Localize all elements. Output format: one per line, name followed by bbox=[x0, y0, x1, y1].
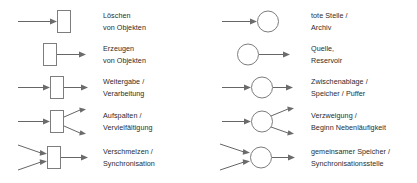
label-group: Aufspalten / Vervielfältigung bbox=[103, 105, 209, 138]
legend-label-line1: Aufspalten / bbox=[103, 110, 209, 121]
label-group: Erzeugen von Objekten bbox=[103, 38, 209, 71]
glyph-two-arrows-in-rectangle-arrow-out bbox=[0, 141, 104, 174]
place-circle bbox=[258, 11, 279, 32]
legend-label-line2: Beginn Nebenläufigkeit bbox=[311, 122, 417, 133]
label-group: gemeinsamer Speicher / Synchronisationss… bbox=[311, 141, 417, 174]
legend-label-line1: Zwischenablage / bbox=[311, 76, 417, 87]
legend-row-tote-stelle: tote Stelle / Archiv bbox=[208, 5, 417, 38]
legend-row-aufspalten: Aufspalten / Vervielfältigung bbox=[0, 105, 208, 138]
label-group: Verzweigung / Beginn Nebenläufigkeit bbox=[311, 105, 417, 138]
legend-row-loeschen: Löschen von Objekten bbox=[0, 5, 208, 38]
glyph-arrow-in-circle-two-arrows-out bbox=[208, 105, 312, 138]
label-group: Zwischenablage / Speicher / Puffer bbox=[311, 71, 417, 104]
legend-column-transitions: Löschen von Objekten Erzeugen von Objekt… bbox=[0, 0, 208, 183]
legend-row-zwischenablage: Zwischenablage / Speicher / Puffer bbox=[208, 71, 417, 104]
legend-column-places: tote Stelle / Archiv Quelle, Reservoir bbox=[208, 0, 417, 183]
legend-row-verschmelzen: Verschmelzen / Synchronisation bbox=[0, 141, 208, 174]
glyph-rectangle-arrow-out bbox=[0, 38, 104, 71]
glyph-arrow-in-rectangle-arrow-out bbox=[0, 71, 104, 104]
legend-label-line2: Reservoir bbox=[311, 55, 417, 66]
legend-label-line2: von Objekten bbox=[103, 55, 209, 66]
transition-rectangle bbox=[48, 147, 61, 169]
place-circle bbox=[252, 111, 273, 132]
place-circle bbox=[252, 77, 273, 98]
glyph-arrow-in-rectangle bbox=[0, 5, 104, 38]
glyph-arrow-in-circle bbox=[208, 5, 312, 38]
legend-label-line2: von Objekten bbox=[103, 22, 209, 33]
legend-row-weitergabe: Weitergabe / Verarbeitung bbox=[0, 71, 208, 104]
label-group: Verschmelzen / Synchronisation bbox=[103, 141, 209, 174]
legend-label-line2: Synchronisation bbox=[103, 158, 209, 169]
glyph-arrow-in-circle-arrow-out bbox=[208, 71, 312, 104]
glyph-two-arrows-in-circle-arrow-out bbox=[208, 141, 312, 174]
legend-label-line1: Weitergabe / bbox=[103, 76, 209, 87]
glyph-circle-arrow-out bbox=[208, 38, 312, 71]
legend-row-gemeinsamer-speicher: gemeinsamer Speicher / Synchronisationss… bbox=[208, 141, 417, 174]
legend-label-line1: Verzweigung / bbox=[311, 110, 417, 121]
label-group: tote Stelle / Archiv bbox=[311, 5, 417, 38]
legend-row-erzeugen: Erzeugen von Objekten bbox=[0, 38, 208, 71]
place-circle bbox=[251, 147, 272, 168]
legend-row-verzweigung: Verzweigung / Beginn Nebenläufigkeit bbox=[208, 105, 417, 138]
legend-row-quelle: Quelle, Reservoir bbox=[208, 38, 417, 71]
label-group: Löschen von Objekten bbox=[103, 5, 209, 38]
petri-net-legend-diagram: Löschen von Objekten Erzeugen von Objekt… bbox=[0, 0, 417, 183]
transition-rectangle bbox=[58, 11, 71, 33]
transition-rectangle bbox=[51, 111, 64, 133]
legend-label-line1: Quelle, bbox=[311, 43, 417, 54]
legend-label-line1: Löschen bbox=[103, 10, 209, 21]
legend-label-line2: Vervielfältigung bbox=[103, 122, 209, 133]
legend-label-line2: Synchronisationsstelle bbox=[311, 158, 417, 169]
legend-label-line1: Verschmelzen / bbox=[103, 146, 209, 157]
transition-rectangle bbox=[51, 77, 64, 99]
legend-label-line1: gemeinsamer Speicher / bbox=[311, 146, 417, 157]
place-circle bbox=[238, 44, 259, 65]
label-group: Quelle, Reservoir bbox=[311, 38, 417, 71]
legend-label-line2: Archiv bbox=[311, 22, 417, 33]
legend-label-line1: Erzeugen bbox=[103, 43, 209, 54]
legend-label-line2: Verarbeitung bbox=[103, 88, 209, 99]
legend-label-line2: Speicher / Puffer bbox=[311, 88, 417, 99]
transition-rectangle bbox=[44, 44, 57, 66]
label-group: Weitergabe / Verarbeitung bbox=[103, 71, 209, 104]
glyph-arrow-in-rectangle-two-arrows-out bbox=[0, 105, 104, 138]
legend-label-line1: tote Stelle / bbox=[311, 10, 417, 21]
